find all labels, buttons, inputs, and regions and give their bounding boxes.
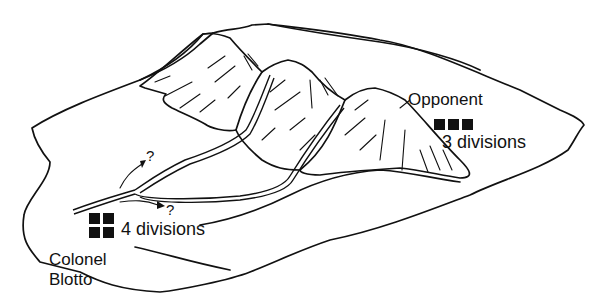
opponent-divisions-label: 3 divisions bbox=[442, 133, 526, 151]
opponent-division-blocks bbox=[434, 119, 473, 130]
opponent-name: Opponent bbox=[408, 91, 483, 108]
division-block bbox=[448, 119, 459, 130]
mountain-middle bbox=[236, 60, 345, 170]
terrain-outline bbox=[23, 24, 584, 292]
blotto-division-blocks bbox=[89, 213, 114, 238]
blotto-divisions-label: 4 divisions bbox=[121, 220, 205, 238]
division-block bbox=[89, 227, 100, 238]
player-name-line1: Colonel bbox=[49, 250, 107, 270]
lower-route-question-mark: ? bbox=[166, 201, 174, 218]
division-block bbox=[89, 213, 100, 224]
upper-route-question-mark: ? bbox=[146, 147, 154, 164]
mountain-left bbox=[140, 33, 262, 130]
player-name: Colonel Blotto bbox=[49, 250, 107, 290]
division-block bbox=[434, 119, 445, 130]
mountain-right-hatching bbox=[345, 100, 452, 172]
player-name-line2: Blotto bbox=[49, 270, 107, 290]
division-block bbox=[103, 213, 114, 224]
division-block bbox=[462, 119, 473, 130]
roads bbox=[73, 75, 344, 214]
division-block bbox=[103, 227, 114, 238]
